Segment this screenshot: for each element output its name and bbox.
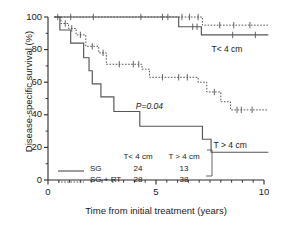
legend-row-label: SG + RT [90,175,121,184]
x-tick-label: 0 [38,186,58,197]
legend-bracket [206,150,212,176]
legend-table-border [206,150,212,176]
legend-count: 38 [164,175,204,184]
y-tick-label: 60 [20,76,42,87]
y-tick-label: 100 [20,11,42,22]
legend-count: 13 [164,164,204,173]
legend-swatch-dotted [58,178,84,186]
label-t-gt-4cm: T > 4 cm [214,140,247,150]
censor-marks [58,14,256,113]
y-tick-label: 40 [20,108,42,119]
p-value: P=0.04 [136,101,163,111]
y-tick-label: 0 [20,174,42,185]
y-axis-ticks [44,17,48,180]
legend-col-header: T > 4 cm [164,152,204,161]
legend-count: 28 [118,175,158,184]
legend-count: 24 [118,164,158,173]
figure-panel: Disease-specific survival (%) Time from … [0,0,288,236]
label-t-lt-4cm: T< 4 cm [211,44,242,54]
y-tick-label: 80 [20,43,42,54]
curve-3 [54,17,268,110]
survival-plot-svg [0,0,288,236]
y-tick-label: 20 [20,141,42,152]
curve-2 [54,17,268,152]
curve-0 [54,17,268,35]
legend-col-header: T< 4 cm [118,152,158,161]
legend-swatch-solid [58,167,84,175]
survival-curves [54,17,268,152]
x-axis-label: Time from initial treatment (years) [48,205,264,216]
x-tick-label: 10 [254,186,274,197]
x-tick-label: 5 [146,186,166,197]
curve-1 [54,17,268,25]
legend-row-label: SG [90,164,102,173]
